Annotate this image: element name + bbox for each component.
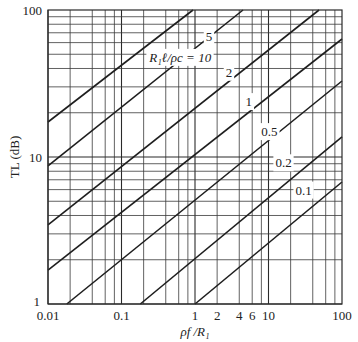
x-tick-label: 2 bbox=[214, 308, 221, 323]
curve-label-0_1: 0.1 bbox=[293, 182, 313, 199]
y-axis-tick-labels: 110100 bbox=[23, 3, 43, 309]
x-tick-label: 4 bbox=[236, 308, 243, 323]
curve-label-1: 1 bbox=[244, 93, 255, 110]
curve-label-0_2: 0.2 bbox=[273, 154, 293, 171]
svg-text:R₁ℓ/ρc = 10: R₁ℓ/ρc = 10 bbox=[148, 50, 211, 65]
x-tick-label: 100 bbox=[332, 308, 352, 323]
svg-text:5: 5 bbox=[206, 29, 213, 44]
x-tick-label: 1 bbox=[192, 308, 199, 323]
svg-text:0.1: 0.1 bbox=[295, 183, 311, 198]
x-axis-label: ρf /R₁ bbox=[179, 324, 209, 339]
svg-text:2: 2 bbox=[226, 65, 233, 80]
x-axis-tick-labels: 0.010.1124610100 bbox=[37, 308, 352, 323]
x-tick-label: 10 bbox=[262, 308, 275, 323]
y-axis-label: TL (dB) bbox=[7, 136, 22, 178]
tl-chart: R₁ℓ/ρc = 105210.50.20.1 0.010.1124610100… bbox=[0, 0, 358, 342]
curve-label-5: 5 bbox=[204, 28, 215, 45]
x-tick-label: 0.01 bbox=[37, 308, 60, 323]
curve-label-2: 2 bbox=[224, 64, 235, 81]
y-tick-label: 100 bbox=[23, 3, 43, 18]
svg-text:1: 1 bbox=[246, 94, 253, 109]
curve-label-10: R₁ℓ/ρc = 10 bbox=[146, 49, 213, 66]
curve-label-0_5: 0.5 bbox=[259, 123, 279, 140]
x-tick-label: 0.1 bbox=[113, 308, 129, 323]
svg-text:0.5: 0.5 bbox=[261, 124, 277, 139]
y-tick-label: 10 bbox=[29, 150, 42, 165]
y-tick-label: 1 bbox=[34, 294, 41, 309]
svg-text:0.2: 0.2 bbox=[275, 155, 291, 170]
x-tick-label: 6 bbox=[249, 308, 256, 323]
